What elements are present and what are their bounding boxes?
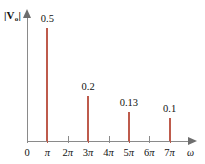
stem-bar (87, 96, 89, 141)
stem-value-label: 0.5 (41, 13, 54, 24)
tick-label-pi: π (170, 147, 175, 158)
y-axis-arrow-icon (23, 9, 31, 18)
stem-bar (169, 118, 171, 141)
x-tick-label-6: 6π (144, 147, 155, 158)
tick-label-pi: π (45, 147, 50, 158)
x-tick-label-5: 5π (124, 147, 135, 158)
tick-label-pi: π (108, 147, 113, 158)
x-axis-arrow-icon (188, 137, 197, 145)
x-tick-label-1: π (45, 147, 50, 158)
x-tick-0 (27, 136, 28, 143)
x-tick-4 (109, 136, 110, 143)
tick-label-pi: π (129, 147, 134, 158)
x-tick-6 (149, 136, 150, 143)
spectrum-chart: |Vo| ω 0π2π3π4π5π6π7π 0.50.20.130.1 (0, 0, 205, 164)
tick-label-number: 0 (24, 147, 29, 158)
x-tick-label-4: 4π (103, 147, 114, 158)
stem-value-label: 0.13 (120, 97, 138, 108)
x-tick-label-2: 2π (62, 147, 73, 158)
tick-label-pi: π (88, 147, 93, 158)
tick-label-pi: π (149, 147, 154, 158)
x-tick-label-3: 3π (83, 147, 94, 158)
y-axis-label-end: | (18, 9, 21, 21)
x-axis-label: ω (187, 147, 194, 158)
stem-bar (128, 112, 130, 141)
stem-value-label: 0.2 (82, 81, 95, 92)
y-axis-line (27, 16, 28, 142)
x-tick-label-7: 7π (164, 147, 175, 158)
y-axis-label: |Vo| (4, 9, 21, 23)
x-tick-2 (68, 136, 69, 143)
y-axis-label-main: |V (4, 9, 15, 21)
x-tick-label-0: 0 (24, 147, 29, 158)
stem-bar (46, 28, 48, 141)
tick-label-pi: π (68, 147, 73, 158)
stem-value-label: 0.1 (163, 103, 176, 114)
